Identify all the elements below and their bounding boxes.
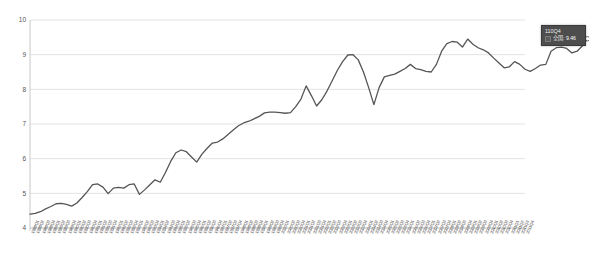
- y-tick-label: 5: [22, 190, 26, 197]
- y-axis-tick-labels: 45678910: [19, 16, 27, 231]
- y-tick-label: 9: [22, 51, 26, 58]
- tooltip-value: 9.46: [566, 35, 576, 41]
- tooltip-series-label: 全国: [553, 35, 563, 41]
- tooltip-separator: :: [563, 35, 564, 41]
- y-tick-label: 4: [22, 224, 26, 231]
- y-tick-label: 6: [22, 155, 26, 162]
- y-gridlines: [30, 20, 525, 228]
- tooltip-title: 110Q4: [545, 28, 582, 35]
- y-tick-label: 8: [22, 86, 26, 93]
- data-tooltip: 110Q4 全国: 9.46: [541, 25, 586, 46]
- line-chart: 45678910 1988Q11988Q21988Q31988Q41989Q11…: [0, 0, 589, 261]
- y-tick-label: 7: [22, 120, 26, 127]
- tooltip-series-row: 全国: 9.46: [545, 35, 582, 42]
- y-tick-label: 10: [19, 16, 27, 23]
- plot-area: 45678910: [0, 0, 589, 261]
- tooltip-color-swatch-icon: [545, 36, 551, 42]
- data-series-line: [30, 39, 588, 214]
